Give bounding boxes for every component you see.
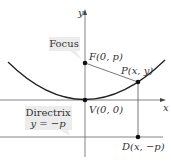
directrix-callout-line1: Directrix	[25, 107, 71, 118]
focus-callout-text: Focus	[49, 38, 79, 49]
focus-point	[83, 61, 88, 66]
parabola-point-label: P(x, y)	[120, 65, 153, 76]
parabola-diagram: Focus Directrix y = −p y x F(0, p) V(0, …	[0, 0, 171, 163]
x-axis-label: x	[163, 102, 169, 113]
y-axis-label: y	[77, 7, 84, 18]
directrix-point-label: D(x, −p)	[121, 141, 165, 152]
focus-label: F(0, p)	[88, 51, 123, 62]
directrix-point	[136, 135, 141, 140]
vertex-point	[83, 98, 88, 103]
vertex-label: V(0, 0)	[89, 104, 123, 115]
directrix-callout-line2: y = −p	[29, 118, 66, 129]
parabola-point	[136, 80, 141, 85]
